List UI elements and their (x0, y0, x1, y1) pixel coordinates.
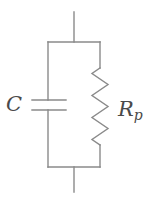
resistor-zigzag-symbol (92, 68, 108, 145)
resistor-label-subscript: p (134, 107, 143, 123)
circuit-diagram-figure: C Rp (0, 0, 149, 199)
resistor-label: Rp (118, 99, 143, 122)
capacitor-label: C (6, 94, 22, 115)
resistor-label-base: R (118, 97, 134, 121)
